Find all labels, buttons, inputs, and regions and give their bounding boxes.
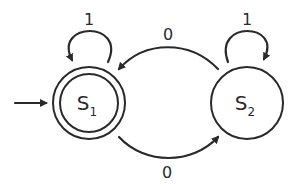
fsa-diagram: 1 1 0 0 S1 S2: [0, 0, 296, 189]
self-loop-s2: 1: [226, 10, 268, 62]
state-s1: S1: [53, 67, 125, 139]
self-loop-s1: 1: [69, 10, 111, 62]
transition-label-s1-s2: 0: [162, 163, 172, 182]
transition-s2-to-s1: 0: [119, 25, 218, 69]
transition-label-s1-s1: 1: [84, 10, 94, 29]
transition-s1-to-s2: 0: [119, 137, 218, 182]
state-s2: S2: [211, 67, 283, 139]
transition-label-s2-s2: 1: [242, 10, 252, 29]
transition-label-s2-s1: 0: [163, 25, 173, 44]
